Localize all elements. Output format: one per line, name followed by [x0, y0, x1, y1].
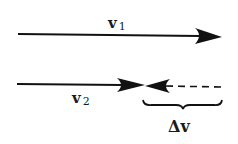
- curly-brace-icon: [143, 100, 222, 109]
- vector-v1-label: v1: [107, 14, 126, 33]
- delta-v-label: Δv: [168, 117, 190, 136]
- vector-v1-arrowhead-icon: [195, 28, 222, 44]
- vector-v2-label: v2: [71, 89, 90, 108]
- vector-delta-v: [145, 79, 222, 93]
- vector-v2: [17, 78, 145, 92]
- vector-v1-shaft: [18, 34, 200, 36]
- vector-diagram: v1 v2 Δv: [0, 0, 238, 144]
- vector-v2-arrowhead-icon: [117, 78, 145, 92]
- diagram-svg: v1 v2 Δv: [0, 0, 238, 144]
- vector-v2-shaft: [17, 84, 122, 85]
- vector-delta-v-dashed-shaft: [166, 86, 222, 87]
